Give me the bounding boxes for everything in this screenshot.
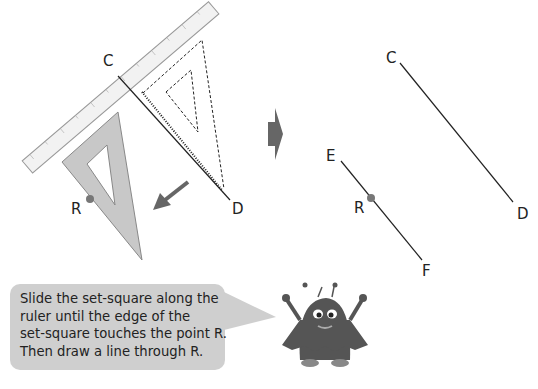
bubble-tail xyxy=(224,292,276,330)
line-cd-left xyxy=(118,76,230,200)
instruction-line: Slide the set-square along the xyxy=(20,290,230,308)
slide-arrow-icon xyxy=(153,182,188,210)
point-r-left xyxy=(86,195,94,203)
label-c-left: C xyxy=(103,52,113,70)
label-e: E xyxy=(326,147,335,165)
instruction-line: set-square touches the point R. xyxy=(20,325,230,343)
label-c-right: C xyxy=(386,49,396,67)
label-r-right: R xyxy=(354,199,364,217)
label-d-left: D xyxy=(232,200,244,218)
label-r-left: R xyxy=(71,200,81,218)
instruction-line: Then draw a line through R. xyxy=(20,343,230,361)
label-d-right: D xyxy=(517,205,529,223)
next-step-arrow-icon xyxy=(268,108,283,160)
monster-mascot xyxy=(282,283,368,368)
instruction-text: Slide the set-square along the ruler unt… xyxy=(20,290,230,360)
point-r-right xyxy=(367,194,375,202)
instruction-line: ruler until the edge of the xyxy=(20,308,230,326)
label-f: F xyxy=(422,262,431,280)
line-cd-right xyxy=(400,63,513,202)
